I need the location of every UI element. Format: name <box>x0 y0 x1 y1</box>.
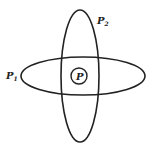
label-p2: P2 <box>96 15 109 27</box>
ellipse-diagram: P2 P1 P <box>0 0 157 155</box>
label-p: P <box>75 71 84 82</box>
label-p1: P1 <box>5 70 18 82</box>
